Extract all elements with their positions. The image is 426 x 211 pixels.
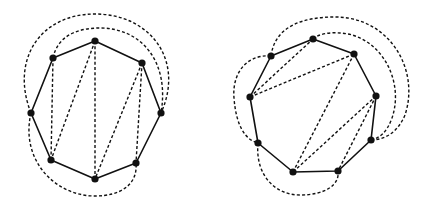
outer-arc-top-to-lower-right xyxy=(313,33,395,140)
vertex-lower-right xyxy=(132,159,139,166)
inner-chord-right-to-bottom-right xyxy=(338,96,376,171)
polygon-boundary xyxy=(250,39,376,172)
vertex-top xyxy=(91,37,98,44)
vertex-top xyxy=(309,35,316,42)
vertex-upper-right xyxy=(350,50,357,57)
vertex-left xyxy=(27,109,34,116)
vertex-right xyxy=(157,109,164,116)
inner-chord-right-to-bottom-left xyxy=(293,96,376,172)
inner-chord-top-to-lower-left xyxy=(51,41,95,160)
vertex-upper-right xyxy=(138,59,145,66)
inner-chord-upper-right-to-bottom-left xyxy=(293,54,354,172)
outer-arc-upper-left-to-right xyxy=(53,28,163,113)
vertex-upper-left xyxy=(267,52,274,59)
vertex-lower-left xyxy=(47,156,54,163)
vertex-upper-left xyxy=(49,54,56,61)
nonagon-triangulation-diagram xyxy=(234,17,409,195)
vertex-bottom xyxy=(91,175,98,182)
outer-arc-left-to-right xyxy=(24,14,168,113)
vertex-lower-right xyxy=(367,136,374,143)
vertex-lower-left xyxy=(254,139,261,146)
outer-arc-left-to-lower-right xyxy=(29,113,136,196)
inner-chord-left-to-top xyxy=(250,39,313,97)
outer-arc-lower-left-to-bottom-right xyxy=(258,143,338,195)
diagram-canvas xyxy=(0,0,426,211)
vertex-bottom-right xyxy=(334,167,341,174)
outer-arc-upper-left-to-lower-right xyxy=(271,17,409,140)
inner-chord-upper-right-to-lower-right xyxy=(136,63,142,163)
octagon-triangulation-diagram xyxy=(24,14,168,196)
vertex-right xyxy=(372,92,379,99)
vertex-left xyxy=(246,93,253,100)
vertex-bottom-left xyxy=(289,168,296,175)
inner-chord-upper-left-to-lower-left xyxy=(51,58,53,160)
inner-chord-left-to-upper-right xyxy=(250,54,354,97)
